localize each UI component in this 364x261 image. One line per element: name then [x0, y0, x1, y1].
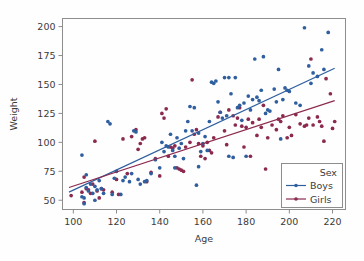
data-point-girls [160, 112, 164, 116]
data-point-boys [182, 157, 186, 161]
data-point-boys [231, 156, 235, 160]
data-point-boys [149, 172, 153, 176]
data-point-girls [138, 142, 142, 146]
data-point-girls [255, 134, 259, 138]
data-point-boys [303, 26, 307, 30]
data-point-girls [298, 122, 302, 126]
data-point-boys [177, 146, 181, 150]
data-point-boys [244, 154, 248, 158]
data-point-girls [212, 136, 216, 140]
data-point-girls [266, 136, 270, 140]
legend-marker-boys [294, 184, 298, 188]
data-point-girls [270, 123, 274, 127]
data-point-boys [322, 68, 326, 72]
x-tick-label: 100 [64, 216, 82, 227]
data-point-boys [108, 122, 112, 126]
data-point-girls [223, 129, 227, 133]
data-point-boys [113, 176, 117, 180]
data-point-boys [121, 179, 125, 183]
data-point-boys [80, 153, 84, 157]
data-point-boys [123, 175, 127, 179]
legend[interactable]: Sex BoysGirls [282, 164, 343, 208]
data-point-girls [240, 124, 244, 128]
legend-label-boys: Boys [310, 180, 333, 191]
data-point-girls [210, 151, 214, 155]
data-point-boys [145, 179, 149, 183]
data-point-boys [192, 106, 196, 110]
data-point-girls [97, 196, 101, 200]
data-point-boys [100, 187, 104, 191]
chart-figure: 100120140160180200220 507510012515017520… [0, 0, 364, 261]
data-point-girls [164, 107, 168, 111]
data-point-boys [175, 136, 179, 140]
data-point-boys [255, 95, 259, 99]
data-point-girls [184, 145, 188, 149]
data-point-girls [329, 92, 333, 96]
x-tick-label: 120 [107, 216, 125, 227]
data-point-girls [257, 117, 261, 121]
data-point-girls [216, 115, 220, 119]
data-point-boys [294, 101, 298, 105]
data-point-boys [272, 87, 276, 91]
data-point-boys [298, 103, 302, 107]
data-point-boys [251, 98, 255, 102]
data-point-boys [257, 99, 261, 103]
data-point-boys [186, 120, 190, 124]
data-point-boys [188, 105, 192, 109]
data-point-boys [136, 178, 140, 182]
data-point-girls [190, 78, 194, 82]
x-tick-label: 200 [280, 216, 298, 227]
data-point-boys [110, 193, 114, 197]
data-point-girls [322, 139, 326, 143]
x-axis-title: Age [195, 233, 214, 244]
data-point-boys [158, 166, 162, 170]
x-tick-label: 220 [323, 216, 341, 227]
data-point-girls [246, 117, 250, 121]
data-point-boys [93, 185, 97, 189]
data-point-boys [320, 48, 324, 52]
y-axis-title: Weight [8, 97, 19, 130]
data-point-girls [264, 167, 268, 171]
data-point-girls [251, 121, 255, 125]
data-point-girls [143, 136, 147, 140]
data-point-girls [203, 157, 207, 161]
data-point-boys [264, 112, 268, 116]
data-point-boys [190, 129, 194, 133]
data-point-boys [240, 119, 244, 123]
data-point-girls [311, 123, 315, 127]
data-point-boys [262, 55, 266, 59]
data-point-girls [279, 120, 283, 124]
x-tick-label: 160 [194, 216, 212, 227]
data-point-girls [162, 116, 166, 120]
data-point-boys [173, 154, 177, 158]
data-point-boys [221, 116, 225, 120]
data-point-boys [277, 68, 281, 72]
data-point-girls [93, 139, 97, 143]
data-point-boys [84, 186, 88, 190]
data-point-girls [233, 123, 237, 127]
data-point-boys [162, 150, 166, 154]
data-point-girls [227, 108, 231, 112]
data-point-boys [93, 198, 97, 202]
data-point-boys [195, 183, 199, 187]
data-point-boys [309, 81, 313, 85]
data-point-girls [182, 169, 186, 173]
data-point-boys [242, 101, 246, 105]
data-point-girls [121, 137, 125, 141]
data-point-girls [188, 141, 192, 145]
data-point-boys [128, 180, 132, 184]
data-point-girls [69, 194, 73, 198]
data-point-boys [197, 165, 201, 169]
y-tick-label: 150 [37, 79, 55, 90]
data-point-girls [275, 128, 279, 132]
y-tick-label: 200 [37, 21, 55, 32]
data-point-girls [236, 116, 240, 120]
data-point-girls [199, 154, 203, 158]
data-point-girls [318, 120, 322, 124]
y-tick-label: 100 [37, 137, 55, 148]
data-point-boys [134, 130, 138, 134]
data-point-boys [102, 191, 106, 195]
data-point-boys [229, 92, 233, 96]
data-point-boys [138, 182, 142, 186]
y-tick-label: 75 [43, 166, 55, 177]
